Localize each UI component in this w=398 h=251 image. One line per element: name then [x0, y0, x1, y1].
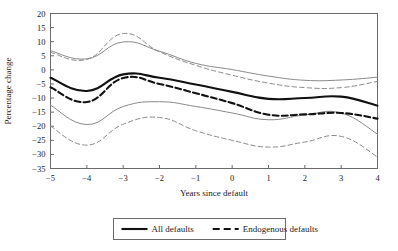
x-tick-label: −3	[119, 173, 128, 183]
y-tick-label: 15	[37, 23, 46, 33]
legend-label: Endogenous defaults	[243, 224, 319, 234]
y-tick-label: −20	[32, 121, 45, 131]
y-tick-label: −5	[36, 79, 45, 89]
y-tick-label: −30	[32, 149, 45, 159]
y-tick-label: −10	[32, 93, 45, 103]
x-tick-label: −5	[46, 173, 55, 183]
y-axis-title: Percentage change	[3, 57, 13, 124]
x-tick-label: 1	[266, 173, 270, 183]
line-chart: 20151050−5−10−15−20−25−30−35 −5−4−3−2−10…	[0, 0, 398, 251]
legend-label: All defaults	[152, 224, 195, 234]
x-tick-label: −4	[82, 173, 92, 183]
y-tick-label: 10	[37, 37, 46, 47]
x-tick-label: 3	[339, 173, 343, 183]
x-axis-title: Years since default	[180, 188, 249, 198]
x-tick-label: −1	[191, 173, 200, 183]
x-tick-label: 0	[230, 173, 234, 183]
x-tick-label: 2	[303, 173, 307, 183]
y-tick-label: −35	[32, 164, 45, 174]
y-tick-label: 5	[41, 51, 45, 61]
y-tick-label: −15	[32, 107, 45, 117]
y-tick-label: −25	[32, 135, 45, 145]
chart-background	[0, 0, 398, 251]
y-tick-label: 0	[41, 65, 45, 75]
figure-container: 20151050−5−10−15−20−25−30−35 −5−4−3−2−10…	[0, 0, 398, 251]
x-tick-label: −2	[155, 173, 164, 183]
y-tick-label: 20	[37, 9, 46, 19]
